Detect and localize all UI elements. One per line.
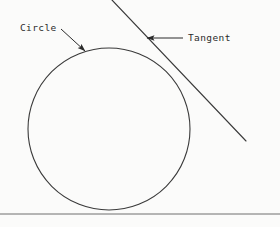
circle-leader-line <box>61 29 85 51</box>
circle-shape <box>28 48 190 210</box>
diagram-svg: Circle Tangent <box>0 0 280 227</box>
tangent-line <box>112 0 246 141</box>
tangent-label: Tangent <box>188 32 231 43</box>
circle-label: Circle <box>20 22 57 33</box>
geometry-diagram-canvas: Circle Tangent <box>0 0 280 227</box>
